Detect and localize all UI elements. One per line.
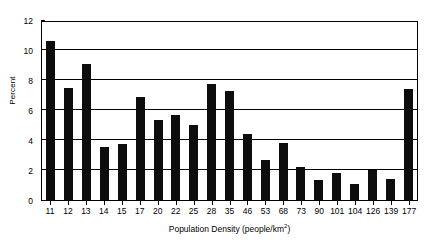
bar-slot <box>221 22 239 200</box>
plot-area <box>41 21 418 201</box>
x-tick-mark <box>194 201 195 205</box>
x-tick-label: 46 <box>243 207 252 216</box>
y-tick-label: 4 <box>11 137 33 146</box>
bar-slot <box>203 22 221 200</box>
x-tick-mark <box>355 201 356 205</box>
bar-slot <box>328 22 346 200</box>
bar-chart: Percent 024681012 1112131415172022252835… <box>0 0 436 249</box>
x-slot: 177 <box>400 201 418 223</box>
x-slot: 53 <box>256 201 274 223</box>
bar-slot <box>131 22 149 200</box>
x-slot: 11 <box>41 201 59 223</box>
y-tick-label: 2 <box>11 167 33 176</box>
bar[interactable] <box>136 97 145 201</box>
y-tick-label: 6 <box>11 107 33 116</box>
bar-slot <box>185 22 203 200</box>
x-tick-label: 13 <box>81 207 90 216</box>
x-tick-mark <box>391 201 392 205</box>
x-tick-mark <box>212 201 213 205</box>
bar-slot <box>96 22 114 200</box>
bar[interactable] <box>154 120 163 200</box>
bar-slot <box>60 22 78 200</box>
bar-slot <box>167 22 185 200</box>
bar[interactable] <box>207 84 216 200</box>
x-tick-mark <box>265 201 266 205</box>
bar[interactable] <box>386 179 395 200</box>
bar-slot <box>78 22 96 200</box>
x-tick-label: 22 <box>171 207 180 216</box>
x-tick-label: 28 <box>207 207 216 216</box>
x-tick-label: 12 <box>63 207 72 216</box>
bar[interactable] <box>296 167 305 200</box>
x-tick-label: 25 <box>189 207 198 216</box>
bar[interactable] <box>46 41 55 200</box>
bar-slot <box>238 22 256 200</box>
x-slot: 12 <box>59 201 77 223</box>
bar-slot <box>256 22 274 200</box>
y-axis-ticks: 024681012 <box>0 21 41 201</box>
x-tick-mark <box>337 201 338 205</box>
x-slot: 101 <box>328 201 346 223</box>
x-axis-title: Population Density (people/km2) <box>41 224 418 234</box>
y-tick-label: 8 <box>11 77 33 86</box>
x-tick-label: 68 <box>279 207 288 216</box>
y-tick-label: 12 <box>11 17 33 26</box>
x-slot: 28 <box>203 201 221 223</box>
bars-layer <box>42 22 417 200</box>
bar[interactable] <box>314 180 323 200</box>
x-tick-label: 104 <box>348 207 362 216</box>
bar-slot <box>113 22 131 200</box>
bar[interactable] <box>118 144 127 200</box>
x-tick-mark <box>301 201 302 205</box>
bar[interactable] <box>261 160 270 201</box>
x-tick-mark <box>50 201 51 205</box>
x-tick-mark <box>104 201 105 205</box>
x-tick-label: 15 <box>117 207 126 216</box>
x-tick-mark <box>319 201 320 205</box>
bar[interactable] <box>100 147 109 200</box>
bar-slot <box>274 22 292 200</box>
x-slot: 68 <box>274 201 292 223</box>
bar-slot <box>149 22 167 200</box>
x-tick-label: 11 <box>46 207 55 216</box>
x-slot: 90 <box>310 201 328 223</box>
bar[interactable] <box>404 89 413 200</box>
x-tick-label: 35 <box>225 207 234 216</box>
x-slot: 46 <box>238 201 256 223</box>
bar-slot <box>292 22 310 200</box>
x-tick-mark <box>409 201 410 205</box>
x-tick-mark <box>68 201 69 205</box>
x-slot: 14 <box>95 201 113 223</box>
bar[interactable] <box>368 170 377 200</box>
bar[interactable] <box>279 143 288 200</box>
bar-slot <box>381 22 399 200</box>
x-slot: 13 <box>77 201 95 223</box>
x-slot: 104 <box>346 201 364 223</box>
bar[interactable] <box>189 125 198 200</box>
x-tick-mark <box>373 201 374 205</box>
bar[interactable] <box>243 134 252 200</box>
x-tick-mark <box>140 201 141 205</box>
x-axis-ticks: 1112131415172022252835465368739010110412… <box>41 201 418 223</box>
bar[interactable] <box>82 64 91 200</box>
x-tick-mark <box>122 201 123 205</box>
x-tick-mark <box>247 201 248 205</box>
x-slot: 20 <box>149 201 167 223</box>
bar[interactable] <box>64 88 73 201</box>
x-tick-label: 90 <box>315 207 324 216</box>
bar-slot <box>346 22 364 200</box>
x-tick-mark <box>230 201 231 205</box>
bar[interactable] <box>350 184 359 201</box>
bar[interactable] <box>332 173 341 200</box>
bar[interactable] <box>171 115 180 200</box>
bar[interactable] <box>225 91 234 201</box>
x-slot: 17 <box>131 201 149 223</box>
x-slot: 126 <box>364 201 382 223</box>
bar-slot <box>42 22 60 200</box>
x-slot: 22 <box>167 201 185 223</box>
y-tick-label: 10 <box>11 47 33 56</box>
x-tick-mark <box>283 201 284 205</box>
x-slot: 15 <box>113 201 131 223</box>
x-tick-label: 177 <box>402 207 416 216</box>
x-tick-label: 20 <box>153 207 162 216</box>
